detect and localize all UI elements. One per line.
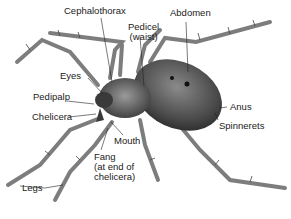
label-pedicel: Pedicel (waist) (128, 22, 159, 42)
abdomen-spot (185, 82, 190, 87)
label-abdomen: Abdomen (170, 8, 211, 18)
head-shape (95, 92, 113, 108)
label-legs: Legs (22, 183, 43, 193)
label-mouth: Mouth (114, 136, 140, 146)
label-anus: Anus (230, 102, 252, 112)
label-fang: Fang (at end of chelicera) (94, 152, 135, 182)
label-pedipalp: Pedipalp (33, 92, 70, 102)
chelicera-shape (96, 108, 104, 122)
label-eyes: Eyes (60, 71, 81, 81)
label-fang-line3: chelicera) (94, 171, 135, 182)
abdomen-spot (170, 76, 174, 80)
label-spinnerets: Spinnerets (219, 121, 264, 131)
label-chelicera: Chelicera (32, 112, 72, 122)
label-cephalothorax: Cephalothorax (64, 6, 126, 16)
spider-anatomy-diagram: Cephalothorax Pedicel (waist) Abdomen Ey… (0, 0, 291, 219)
label-pedicel-line2: (waist) (130, 31, 158, 42)
